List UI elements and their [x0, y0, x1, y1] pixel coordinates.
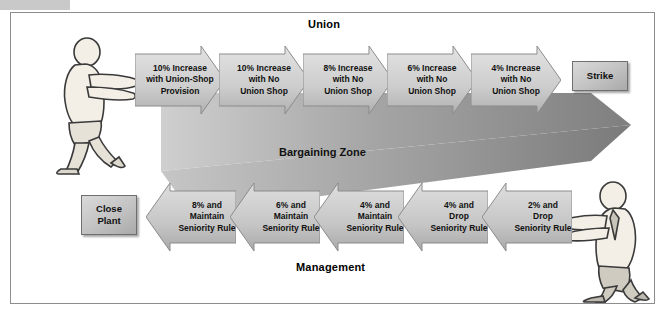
- close-plant-line-2: Plant: [97, 215, 120, 227]
- mgmt-offer-2-line-2: Maintain: [274, 211, 308, 222]
- figure-frame: Bargaining Zone Union Management: [10, 12, 655, 304]
- mgmt-offer-3-line-1: 4% and: [360, 200, 390, 211]
- mgmt-offer-5-line-3: Seniority Rule: [514, 223, 571, 234]
- union-offer-1-line-3: Provision: [161, 86, 200, 97]
- union-person-icon: [39, 35, 149, 175]
- mgmt-offer-3-line-3: Seniority Rule: [346, 223, 403, 234]
- union-offer-2-line-2: with No: [249, 74, 280, 85]
- union-offer-3-line-1: 8% Increase: [323, 63, 372, 74]
- union-offer-2-line-1: 10% Increase: [237, 63, 291, 74]
- union-offer-3-line-2: with No: [333, 74, 364, 85]
- union-offer-4-line-3: Union Shop: [408, 86, 456, 97]
- mgmt-offer-4-line-2: Drop: [449, 211, 469, 222]
- close-plant-line-1: Close: [96, 203, 122, 215]
- mgmt-offer-5-arrow: 2% and Drop Seniority Rule: [482, 183, 572, 251]
- union-offer-4-line-1: 6% Increase: [407, 63, 456, 74]
- mgmt-offer-2-line-3: Seniority Rule: [262, 223, 319, 234]
- union-offer-1-line-2: with Union-Shop: [146, 74, 214, 85]
- union-label: Union: [308, 18, 340, 30]
- mgmt-offer-2-arrow: 6% and Maintain Seniority Rule: [230, 183, 320, 251]
- strike-outcome-box: Strike: [572, 61, 628, 91]
- union-offer-2-line-3: Union Shop: [240, 86, 288, 97]
- mgmt-offer-5-line-1: 2% and: [528, 200, 558, 211]
- union-offer-4-line-2: with No: [417, 74, 448, 85]
- union-offer-3-arrow: 8% Increase with No Union Shop: [303, 46, 393, 114]
- mgmt-offer-1-line-1: 8% and: [192, 200, 222, 211]
- mgmt-offer-4-arrow: 4% and Drop Seniority Rule: [398, 183, 488, 251]
- management-label: Management: [296, 261, 365, 273]
- union-offer-1-arrow: 10% Increase with Union-Shop Provision: [135, 46, 225, 114]
- union-offer-5-arrow: 4% Increase with No Union Shop: [471, 46, 561, 114]
- union-offer-4-arrow: 6% Increase with No Union Shop: [387, 46, 477, 114]
- mgmt-offer-2-line-1: 6% and: [276, 200, 306, 211]
- union-offer-3-line-3: Union Shop: [324, 86, 372, 97]
- union-offer-2-arrow: 10% Increase with No Union Shop: [219, 46, 309, 114]
- mgmt-offer-1-arrow: 8% and Maintain Seniority Rule: [146, 183, 236, 251]
- close-plant-outcome-box: Close Plant: [81, 195, 137, 235]
- mgmt-offer-3-arrow: 4% and Maintain Seniority Rule: [314, 183, 404, 251]
- bargaining-zone-label: Bargaining Zone: [279, 146, 366, 158]
- figure-canvas: Bargaining Zone Union Management: [0, 0, 665, 312]
- union-offer-5-line-1: 4% Increase: [491, 63, 540, 74]
- mgmt-offer-1-line-3: Seniority Rule: [178, 223, 235, 234]
- mgmt-offer-4-line-3: Seniority Rule: [430, 223, 487, 234]
- page-top-tab: [0, 0, 70, 10]
- mgmt-offer-3-line-2: Maintain: [358, 211, 392, 222]
- mgmt-offer-1-line-2: Maintain: [190, 211, 224, 222]
- union-offer-5-line-2: with No: [501, 74, 532, 85]
- union-offer-5-line-3: Union Shop: [492, 86, 540, 97]
- mgmt-offer-4-line-1: 4% and: [444, 200, 474, 211]
- union-offer-1-line-1: 10% Increase: [153, 63, 207, 74]
- mgmt-offer-5-line-2: Drop: [533, 211, 553, 222]
- strike-label: Strike: [587, 70, 613, 82]
